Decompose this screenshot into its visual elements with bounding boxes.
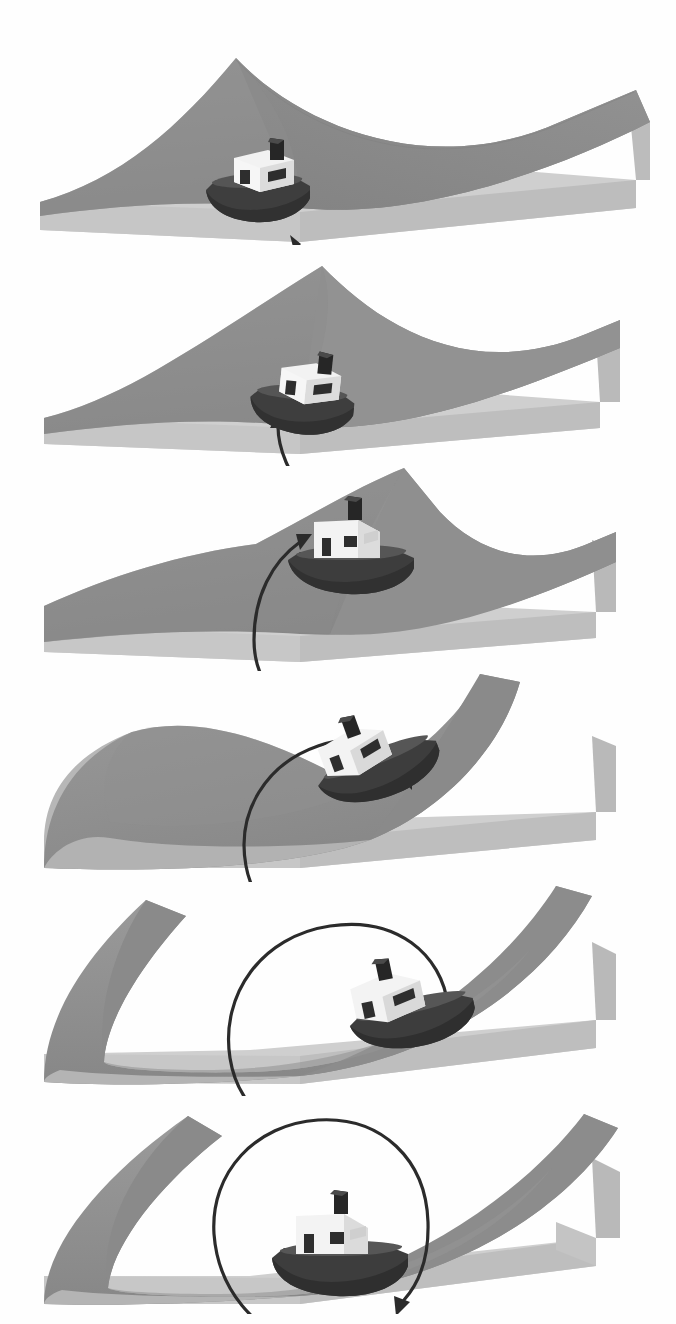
panel-4 — [0, 672, 676, 882]
panel-6 — [0, 1098, 676, 1314]
boat-smokestack — [371, 957, 393, 982]
cabin-window-icon — [240, 170, 250, 184]
cabin-window-icon — [322, 538, 331, 556]
boat-smokestack — [268, 138, 284, 160]
panel-5 — [0, 884, 676, 1096]
panel-1 — [0, 30, 676, 245]
boat-cabin — [296, 1214, 368, 1254]
cabin-window-icon — [285, 380, 296, 395]
boat — [272, 1190, 408, 1296]
cabin-window-icon — [304, 1234, 314, 1253]
panel-2 — [0, 256, 676, 466]
cabin-window-side-icon — [330, 1232, 344, 1244]
figure-root — [0, 0, 676, 1324]
boat-smokestack — [330, 1190, 348, 1214]
panel-3 — [0, 466, 676, 671]
cabin-window-side-icon — [344, 536, 357, 547]
